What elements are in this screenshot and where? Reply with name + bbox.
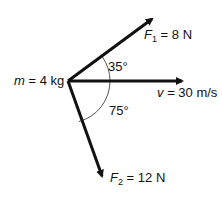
force-f2-arrow bbox=[68, 81, 102, 176]
mass-label: m = 4 kg bbox=[14, 74, 64, 87]
velocity-label: v = 30 m/s bbox=[157, 86, 217, 99]
angle-arc-75 bbox=[79, 81, 110, 122]
angle-label-75: 75° bbox=[109, 104, 129, 117]
force-f2-label: F2 = 12 N bbox=[110, 171, 165, 187]
force-f1-label: F1 = 8 N bbox=[144, 28, 192, 44]
angle-label-35: 35° bbox=[108, 60, 128, 73]
